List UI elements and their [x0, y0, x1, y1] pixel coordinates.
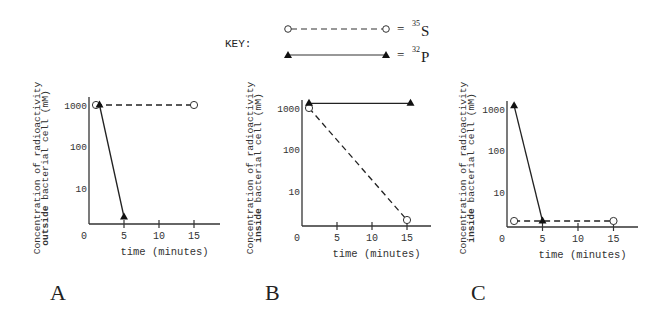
open-circle-marker-icon: [610, 217, 617, 224]
panel-a: 100010010051015time (minutes)Concentrati…: [32, 81, 220, 305]
x-tick-label: 0: [499, 234, 505, 245]
y-tick-label: 10: [76, 184, 88, 195]
x-tick-label: 15: [188, 231, 200, 242]
x-tick-label: 15: [401, 233, 413, 244]
series-line-32P: [514, 106, 542, 221]
x-tick-label: 10: [572, 234, 584, 245]
y-axis-label-bold: outside: [40, 205, 51, 246]
y-axis-label-bold: inside: [253, 208, 264, 243]
y-tick-label: 10: [289, 187, 301, 198]
y-axis-label-bold: inside: [466, 208, 477, 243]
filled-triangle-marker-icon: [510, 101, 518, 108]
y-tick-label: 100: [488, 146, 505, 157]
open-circle-icon: [383, 26, 390, 33]
legend-title: KEY:: [225, 38, 251, 50]
y-tick-label: 1000: [64, 101, 87, 112]
x-tick-label: 5: [539, 234, 545, 245]
y-tick-label: 100: [283, 145, 300, 156]
panel-label: A: [50, 280, 66, 305]
legend-equals: =: [397, 21, 404, 36]
open-circle-marker-icon: [190, 101, 197, 108]
open-circle-marker-icon: [403, 216, 410, 223]
y-axis-label-rest: bacterial cell (mM): [40, 90, 51, 205]
filled-triangle-marker-icon: [539, 217, 547, 224]
filled-triangle-marker-icon: [407, 99, 415, 106]
figure: KEY: = 35 S = 32 P 100010010051015time (…: [0, 0, 669, 328]
y-axis-label-line2: inside bacterial cell (mM): [253, 93, 264, 243]
legend-equals: =: [397, 47, 404, 62]
y-axis-label-rest: bacterial cell (mM): [253, 93, 264, 208]
series-line-35S: [309, 108, 407, 220]
open-circle-icon: [285, 26, 292, 33]
isotope-symbol: P: [421, 49, 429, 65]
x-tick-label: 15: [607, 234, 619, 245]
legend: KEY: = 35 S = 32 P: [225, 19, 429, 65]
x-tick-label: 0: [294, 233, 300, 244]
x-tick-label: 10: [366, 233, 378, 244]
isotope-mass: 35: [412, 19, 420, 28]
legend-entry-sulfur: = 35 S: [285, 19, 430, 39]
y-tick-label: 10: [494, 188, 506, 199]
x-axis-label: time (minutes): [538, 249, 626, 261]
panel-label: B: [265, 280, 280, 305]
x-tick-label: 10: [153, 231, 165, 242]
x-tick-label: 5: [121, 231, 127, 242]
series-line-32P: [100, 105, 125, 217]
filled-triangle-marker-icon: [305, 99, 313, 106]
y-tick-label: 100: [70, 142, 87, 153]
y-tick-label: 1000: [277, 104, 300, 115]
x-tick-label: 5: [334, 233, 340, 244]
y-axis-label-rest: bacterial cell (mM): [466, 93, 477, 208]
y-axis-label-line2: outside bacterial cell (mM): [40, 90, 51, 245]
panel-c: 100010010051015time (minutes)Concentrati…: [458, 81, 638, 305]
legend-entry-phosphorus: = 32 P: [284, 45, 429, 65]
x-axis-label: time (minutes): [332, 248, 420, 260]
x-tick-label: 0: [81, 231, 87, 242]
y-axis-label-line2: inside bacterial cell (mM): [466, 93, 477, 243]
isotope-symbol: S: [421, 23, 429, 39]
isotope-mass: 32: [412, 45, 420, 54]
filled-triangle-marker-icon: [120, 213, 128, 220]
panel-b: 100010010051015time (minutes)Concentrati…: [245, 81, 431, 305]
y-tick-label: 1000: [482, 105, 505, 116]
x-axis-label: time (minutes): [120, 246, 208, 258]
open-circle-marker-icon: [510, 217, 517, 224]
panel-label: C: [471, 280, 486, 305]
